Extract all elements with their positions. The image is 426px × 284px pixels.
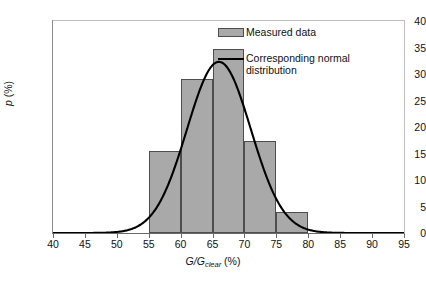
x-tick-mark [117,234,118,238]
legend-swatch-icon [218,28,244,37]
x-tick-mark [276,234,277,238]
histogram-chart: 0510152025303540 p (%) 40455055606570758… [0,0,426,284]
x-tick-label: 95 [384,239,424,250]
legend-item-label: Measured data [246,26,316,39]
x-tick-mark [181,234,182,238]
x-axis-label-unit: (%) [221,255,240,267]
y-axis-label-unit: (%) [2,81,14,100]
y-axis-label: p (%) [2,81,14,106]
x-tick-mark [244,234,245,238]
x-tick-mark [149,234,150,238]
chart-legend: Measured data Corresponding normal distr… [218,26,408,90]
y-axis-label-main: p [2,100,14,106]
x-tick-mark [404,234,405,238]
legend-line-icon [218,54,244,63]
x-axis-label-main: G/G [186,255,205,267]
x-tick-mark [340,234,341,238]
x-tick-mark [372,234,373,238]
x-axis-label: G/Gclear (%) [0,255,426,267]
x-tick-mark [53,234,54,238]
x-tick-mark [308,234,309,238]
x-tick-mark [213,234,214,238]
legend-item-measured-data: Measured data [218,26,408,39]
legend-item-normal-distribution: Corresponding normal distribution [218,52,408,77]
x-axis-label-subscript: clear [205,260,221,269]
legend-item-label: Corresponding normal distribution [246,52,396,77]
x-tick-mark [85,234,86,238]
